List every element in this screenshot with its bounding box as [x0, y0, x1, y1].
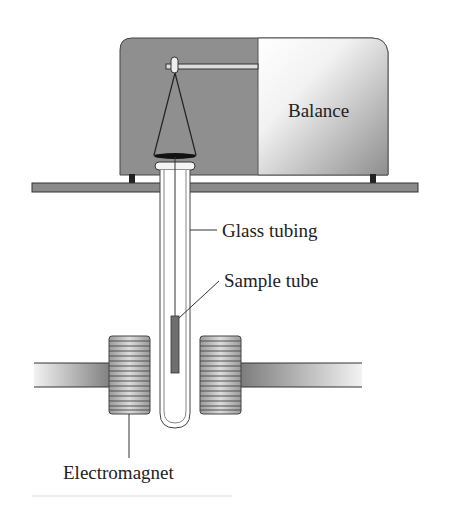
gouy-balance-diagram — [0, 0, 449, 508]
electromagnet-coil-left — [109, 336, 150, 414]
electromagnet-coil-right — [200, 336, 241, 414]
shelf — [32, 183, 418, 192]
glass-tubing-label: Glass tubing — [222, 221, 318, 240]
magnet-core — [34, 363, 362, 387]
glass-tubing — [160, 157, 190, 428]
sample-tube-label: Sample tube — [224, 271, 318, 290]
balance-label: Balance — [288, 101, 349, 120]
sample-tube — [171, 316, 179, 373]
electromagnet-label: Electromagnet — [63, 463, 174, 482]
